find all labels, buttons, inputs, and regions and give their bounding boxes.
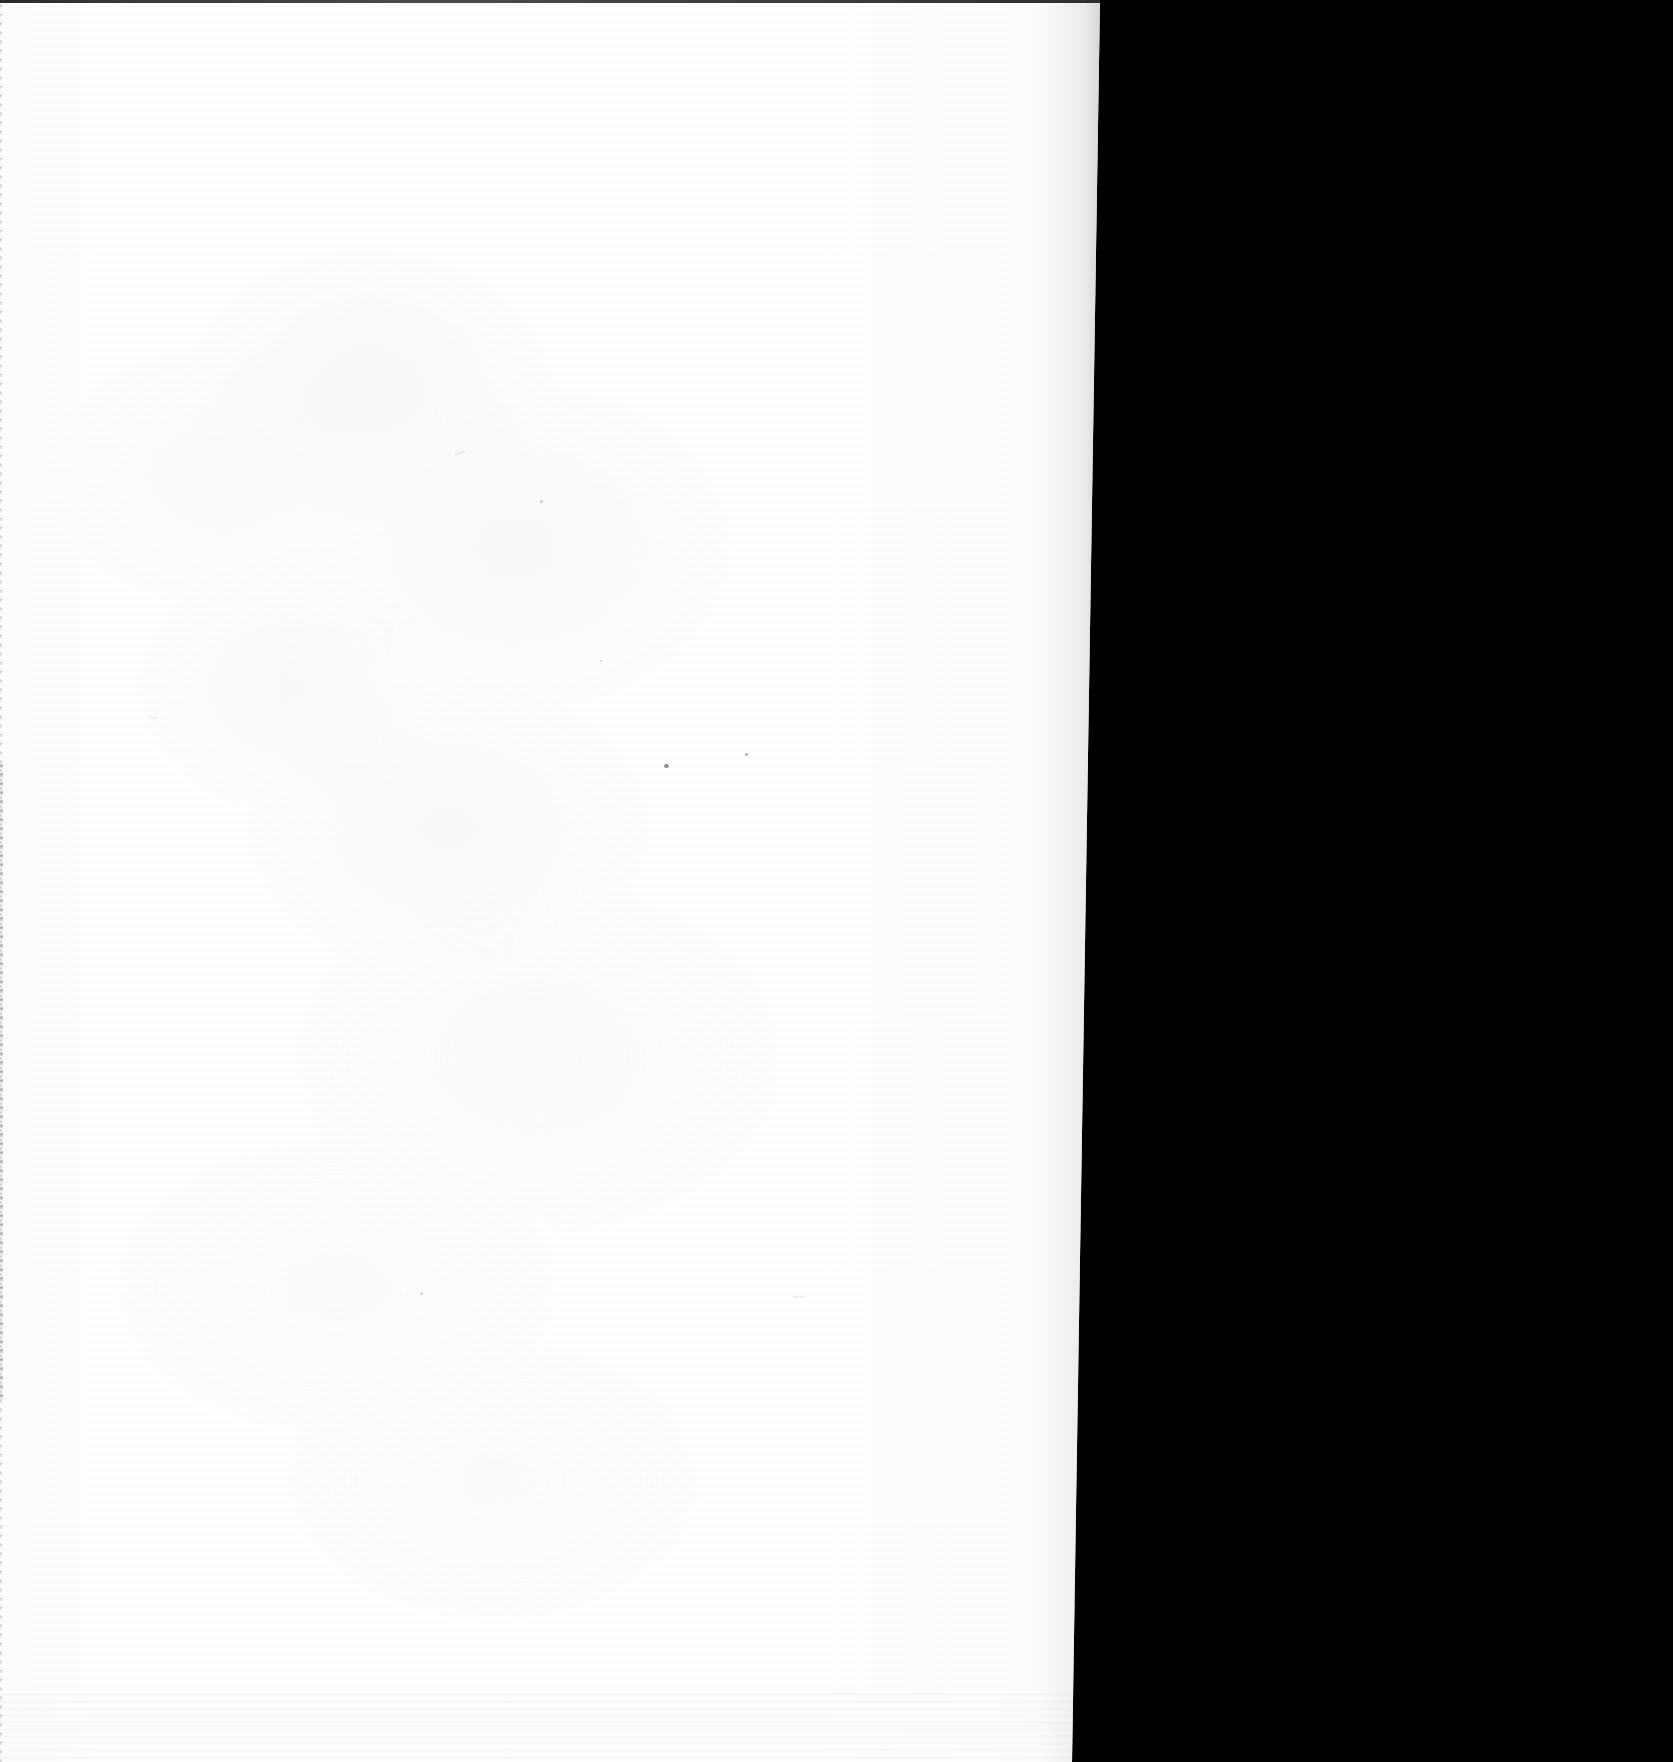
top-edge-line bbox=[0, 0, 1100, 3]
paper-sheet bbox=[0, 0, 1120, 1762]
page-content-area bbox=[120, 150, 960, 1570]
scan-streak-band-bottom bbox=[0, 1690, 1120, 1762]
scanned-page-canvas bbox=[0, 0, 1673, 1762]
left-gutter-line-strong bbox=[0, 760, 3, 1400]
